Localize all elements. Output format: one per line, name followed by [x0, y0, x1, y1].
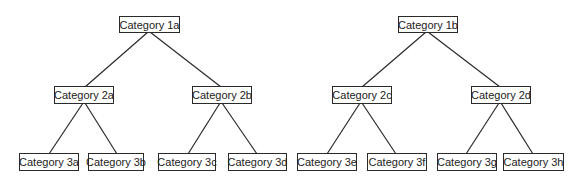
- hierarchy-diagram: Category 1a Category 2a Category 2b Cate…: [0, 0, 579, 185]
- edge-2b-3c: [188, 103, 220, 154]
- edge-2b-3d: [222, 103, 257, 154]
- edge-1a-2b: [150, 32, 221, 87]
- node-category-3h: Category 3h: [503, 153, 564, 171]
- node-category-2d: Category 2d: [471, 86, 531, 104]
- edge-2c-3f: [362, 103, 396, 154]
- edge-2c-3e: [327, 103, 360, 154]
- edge-2d-3g: [466, 103, 499, 154]
- edge-2a-3b: [85, 103, 117, 154]
- node-category-3f: Category 3f: [367, 153, 427, 171]
- edge-2a-3a: [49, 103, 83, 154]
- node-category-2c: Category 2c: [332, 86, 392, 104]
- node-category-3a: Category 3a: [19, 153, 79, 171]
- edge-1b-2d: [428, 32, 500, 87]
- node-category-2a: Category 2a: [54, 86, 114, 104]
- node-category-1b: Category 1b: [398, 16, 458, 33]
- node-category-3b: Category 3b: [88, 153, 144, 171]
- node-category-3g: Category 3g: [437, 153, 497, 171]
- edge-1a-2a: [85, 32, 148, 87]
- node-category-3c: Category 3c: [158, 153, 216, 171]
- node-category-2b: Category 2b: [192, 86, 252, 104]
- node-category-1a: Category 1a: [119, 16, 180, 33]
- node-category-3d: Category 3d: [228, 153, 287, 171]
- edge-1b-2c: [362, 32, 426, 87]
- edge-2d-3h: [501, 103, 533, 154]
- node-category-3e: Category 3e: [297, 153, 357, 171]
